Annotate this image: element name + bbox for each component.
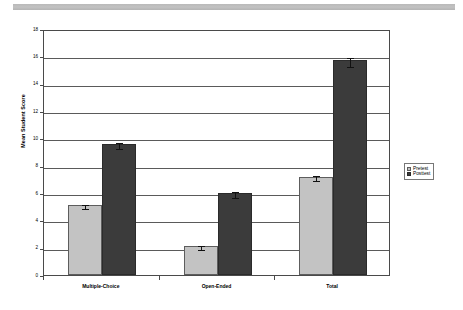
error-bar-cap-top	[232, 192, 239, 193]
y-axis-tick-label: 8	[18, 164, 38, 169]
y-axis-tick-label: 6	[18, 192, 38, 197]
gridline	[44, 58, 389, 59]
x-axis-tick-mark	[43, 276, 44, 280]
bar-pretest-total	[299, 177, 333, 275]
error-bar-cap-bottom	[347, 67, 354, 68]
error-bar-cap-top	[347, 58, 354, 59]
error-bar-cap-bottom	[82, 209, 89, 210]
y-axis-tick-label: 12	[18, 110, 38, 115]
error-bar-line	[350, 58, 351, 68]
error-bar-cap-top	[116, 143, 123, 144]
y-axis-tick-label: 10	[18, 137, 38, 142]
bar-posttest-multiple-choice	[102, 144, 136, 275]
plot-area	[43, 30, 390, 276]
y-axis-tick-label: 2	[18, 246, 38, 251]
legend-item-posttest: Posttest	[407, 172, 430, 177]
y-axis-tick-mark	[40, 139, 43, 140]
x-axis-label-total: Total	[292, 283, 372, 289]
error-bar-cap-bottom	[313, 181, 320, 182]
y-axis-tick-label: 0	[18, 274, 38, 279]
y-axis-tick-mark	[40, 221, 43, 222]
y-axis-tick-label: 18	[18, 28, 38, 33]
error-bar-cap-bottom	[116, 149, 123, 150]
pretest-swatch-icon	[407, 167, 411, 171]
error-bar-cap-top	[313, 176, 320, 177]
posttest-swatch-icon	[407, 172, 411, 176]
bar-chart: Mean Student Score 024681012141618 Multi…	[0, 22, 463, 302]
y-axis-tick-mark	[40, 249, 43, 250]
chart-legend: Pretest Posttest	[404, 163, 434, 180]
y-axis-tick-mark	[40, 112, 43, 113]
legend-label-posttest: Posttest	[413, 172, 430, 177]
top-banner-strip	[13, 4, 455, 10]
bar-posttest-total	[333, 60, 367, 275]
x-axis-tick-mark	[274, 276, 275, 280]
y-axis-tick-mark	[40, 30, 43, 31]
error-bar-cap-bottom	[198, 250, 205, 251]
y-axis-tick-mark	[40, 85, 43, 86]
error-bar-cap-bottom	[232, 198, 239, 199]
y-axis-tick-mark	[40, 194, 43, 195]
y-axis-tick-mark	[40, 167, 43, 168]
error-bar-cap-top	[198, 246, 205, 247]
bar-posttest-open-ended	[218, 193, 252, 275]
x-axis-tick-mark	[159, 276, 160, 280]
bar-pretest-multiple-choice	[68, 205, 102, 275]
y-axis-tick-mark	[40, 57, 43, 58]
y-axis-tick-label: 4	[18, 219, 38, 224]
y-axis-tick-label: 16	[18, 55, 38, 60]
error-bar-cap-top	[82, 205, 89, 206]
x-axis-label-open-ended: Open-Ended	[177, 283, 257, 289]
y-axis-tick-label: 14	[18, 82, 38, 87]
x-axis-label-multiple-choice: Multiple-Choice	[61, 283, 141, 289]
chart-figure: Mean Student Score 024681012141618 Multi…	[0, 0, 463, 310]
